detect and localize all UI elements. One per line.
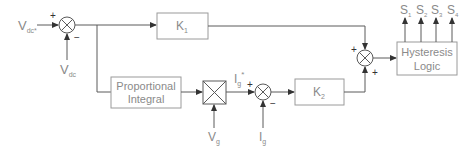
s3-label: S3 (431, 3, 443, 18)
control-block-diagram: Vdc* + − Vdc K1 Proportional Integral Vg (0, 0, 476, 156)
pi-branch-wire (97, 25, 111, 92)
s2-label: S2 (416, 3, 428, 18)
hysteresis-label-line2: Logic (414, 60, 441, 72)
sum2-plus-sign-left: + (351, 44, 357, 55)
ig-label: Ig (259, 130, 266, 146)
summing-junction-2 (357, 50, 373, 66)
vdc-label: Vdc (60, 62, 77, 78)
multiplier-block (203, 81, 226, 104)
ig-ref-label: Ig* (234, 70, 244, 88)
summing-junction-3 (255, 84, 271, 100)
sum1-minus-sign: − (74, 32, 80, 43)
k2-output-wire (344, 67, 365, 92)
hysteresis-label-line1: Hysteresis (401, 46, 453, 58)
vdc-ref-label: Vdc* (18, 18, 37, 34)
sum3-plus-sign: + (247, 79, 253, 90)
k1-output-wire (208, 26, 365, 49)
summing-junction-1 (59, 17, 75, 33)
s4-label: S4 (447, 3, 459, 18)
s1-label: S1 (400, 3, 412, 18)
sum2-plus-sign-bottom: + (372, 67, 378, 78)
sum1-plus-sign: + (50, 10, 56, 21)
pi-label-line2: Integral (128, 93, 165, 105)
sum3-minus-sign: − (270, 98, 276, 109)
vg-label: Vg (208, 130, 220, 146)
pi-label-line1: Proportional (116, 80, 175, 92)
